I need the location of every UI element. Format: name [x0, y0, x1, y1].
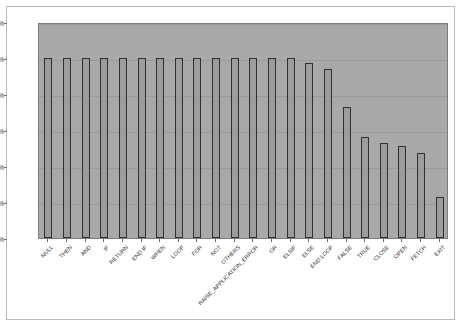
x-tick-mark	[346, 239, 347, 242]
x-tick-mark	[103, 239, 104, 242]
x-tick-mark	[215, 239, 216, 242]
x-tick-label: NULL	[40, 244, 55, 259]
x-tick-label: ELSE	[301, 244, 316, 259]
bar	[119, 58, 127, 238]
x-tick-mark	[383, 239, 384, 242]
x-tick-label: EXIT	[433, 244, 446, 257]
x-tick-mark	[159, 239, 160, 242]
y-axis: 0%20%40%60%80%100%120%	[7, 7, 38, 319]
x-tick-mark	[47, 239, 48, 242]
x-tick-mark	[122, 239, 123, 242]
x-tick-label: OPEN	[393, 244, 409, 260]
x-tick-label: END IF	[130, 244, 148, 262]
y-tick-mark	[4, 23, 7, 24]
x-tick-label: OR	[268, 244, 278, 254]
x-tick-mark	[401, 239, 402, 242]
x-tick-mark	[234, 239, 235, 242]
bar	[212, 58, 220, 238]
bar	[268, 58, 276, 238]
bar	[436, 197, 444, 238]
bar	[231, 58, 239, 238]
x-tick-label: TRUE	[356, 244, 371, 259]
bar	[398, 146, 406, 238]
x-axis: NULLTHENANDIFRETURNEND IFWHENLOOPFORNOTO…	[38, 239, 448, 319]
x-tick-label: WHEN	[150, 244, 167, 261]
x-tick-label: RETURN	[108, 244, 129, 265]
bar	[175, 58, 183, 238]
bar	[380, 143, 388, 238]
y-tick-mark	[4, 239, 7, 240]
bar	[305, 63, 313, 238]
x-tick-mark	[364, 239, 365, 242]
bar	[138, 58, 146, 238]
x-tick-mark	[85, 239, 86, 242]
x-tick-mark	[439, 239, 440, 242]
x-tick-mark	[290, 239, 291, 242]
x-tick-mark	[66, 239, 67, 242]
bar	[63, 58, 71, 238]
y-tick-mark	[4, 203, 7, 204]
y-tick-mark	[4, 59, 7, 60]
x-tick-label: IF	[103, 244, 111, 252]
x-tick-label: FOR	[191, 244, 204, 257]
x-tick-mark	[196, 239, 197, 242]
y-tick-mark	[4, 131, 7, 132]
x-tick-mark	[252, 239, 253, 242]
bar	[100, 58, 108, 238]
bar	[156, 58, 164, 238]
x-tick-label: AND	[79, 244, 92, 257]
x-tick-mark	[178, 239, 179, 242]
bar	[82, 58, 90, 238]
bars-series	[39, 24, 447, 238]
x-tick-mark	[271, 239, 272, 242]
x-tick-mark	[308, 239, 309, 242]
bar	[249, 58, 257, 238]
plot-area	[38, 23, 448, 239]
bar	[44, 58, 52, 238]
x-tick-label: THEN	[58, 244, 73, 259]
x-tick-mark	[327, 239, 328, 242]
chart-figure: 0%20%40%60%80%100%120% NULLTHENANDIFRETU…	[6, 6, 455, 320]
x-tick-mark	[420, 239, 421, 242]
x-tick-label: ELSIF	[281, 244, 297, 260]
y-tick-mark	[4, 95, 7, 96]
bar	[287, 58, 295, 238]
x-tick-mark	[141, 239, 142, 242]
x-tick-label: FETCH	[409, 244, 427, 262]
bar	[343, 107, 351, 238]
x-tick-label: CLOSE	[372, 244, 390, 262]
bar	[417, 153, 425, 238]
y-tick-mark	[4, 167, 7, 168]
bar	[361, 137, 369, 238]
bar	[324, 69, 332, 238]
x-tick-label: LOOP	[169, 244, 185, 260]
x-tick-label: NOT	[209, 244, 222, 257]
x-tick-label: FALSE	[336, 244, 353, 261]
bar	[193, 58, 201, 238]
